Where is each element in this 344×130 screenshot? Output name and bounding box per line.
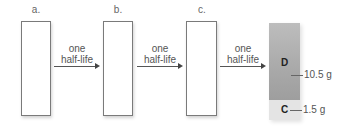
arrow-label-2-line1: one <box>135 43 185 54</box>
half-life-arrow-1 <box>54 62 100 72</box>
arrow-head-icon <box>95 63 100 69</box>
sample-box-c <box>186 21 217 116</box>
carbon-mass-leader <box>290 110 302 111</box>
arrow-head-icon <box>178 63 183 69</box>
stage-label-a: a. <box>21 4 51 15</box>
daughter-mass-label: 10.5 g <box>304 69 332 80</box>
stage-label-b: b. <box>103 4 133 15</box>
arrow-label-1-line1: one <box>52 43 102 54</box>
carbon-mass-label: 1.5 g <box>303 104 325 115</box>
daughter-mass-leader <box>291 75 303 76</box>
sample-box-a <box>21 21 51 116</box>
final-sample-box: D C <box>269 23 300 120</box>
arrow-label-3-line1: one <box>218 43 268 54</box>
stage-label-c: c. <box>187 4 217 15</box>
daughter-segment: D <box>269 23 300 100</box>
daughter-letter: D <box>269 57 300 68</box>
half-life-arrow-2 <box>137 62 183 72</box>
half-life-arrow-3 <box>220 62 266 72</box>
arrow-head-icon <box>261 63 266 69</box>
sample-box-b <box>103 21 133 116</box>
